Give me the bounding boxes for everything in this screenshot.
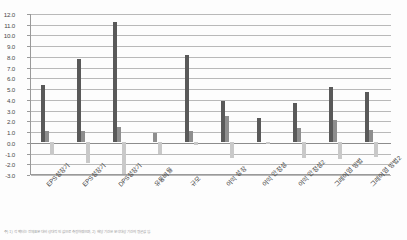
y-axis-tick-label: 12.0 [0,11,15,18]
bar [329,87,333,142]
chart-container: 12.011.010.09.08.07.06.05.04.03.02.01.00… [0,0,407,240]
bar [153,133,157,142]
y-axis-tick-label: 2.0 [0,118,15,125]
bar [122,142,126,174]
bar [117,127,121,142]
y-axis-tick-label: 3.0 [0,107,15,114]
bar [113,22,117,142]
bar [365,92,369,141]
bar [293,103,297,142]
bar [257,118,261,142]
bar [266,142,270,144]
bar-group [175,13,211,174]
bar [338,142,342,159]
bar [374,142,378,157]
bar [158,142,162,154]
bar [45,131,49,142]
y-axis-tick-label: 8.0 [0,54,15,61]
bar [221,101,225,142]
bar-group [247,13,283,174]
bar-group [67,13,103,174]
bar [41,85,45,142]
bar-group [283,13,319,174]
y-axis-tick-label: 10.0 [0,32,15,39]
bar [230,142,234,158]
bar [86,142,90,163]
bar [369,130,373,142]
bar [185,55,189,142]
bar-group [211,13,247,174]
bar [302,142,306,158]
bar-group [319,13,355,174]
bar [50,142,54,155]
bar [189,131,193,142]
bar [333,120,337,141]
x-axis-tick-label: 규모 [188,174,203,189]
bar-group [355,13,391,174]
x-axis-category-labels: EPS성장기EPS성장기DPS성장기유동비율규모이익 성장이익 안정성이익 안정… [0,176,407,228]
bar [81,131,85,142]
y-axis-tick-label: -1.0 [0,150,15,157]
y-axis-tick-label: 1.0 [0,129,15,136]
bar-group [103,13,139,174]
y-axis-tick-label: 6.0 [0,75,15,82]
y-axis-tick-label: 0.0 [0,139,15,146]
bar [297,128,301,142]
bar [194,142,198,145]
y-axis-tick-label: 7.0 [0,64,15,71]
y-axis-tick-label: 4.0 [0,96,15,103]
y-axis-tick-label: -2.0 [0,161,15,168]
bar-group [139,13,175,174]
y-axis-tick-label: 9.0 [0,43,15,50]
bar-group [31,13,67,174]
bar [77,59,81,142]
y-axis-tick-label: 11.0 [0,21,15,28]
plot-area [30,14,390,175]
y-axis-tick-label: 5.0 [0,86,15,93]
bar [225,116,229,142]
chart-caption: 주) 1) 각 팩터는 전체표본 대비 상대적인 값으로 측정하였으며, 2) … [4,230,404,235]
